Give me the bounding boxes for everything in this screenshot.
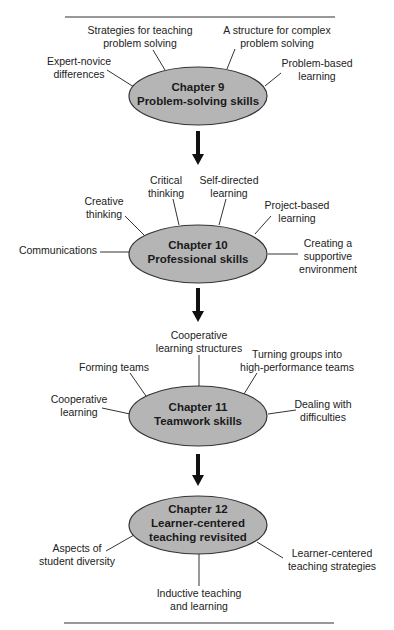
topic-critical-thinking: Criticalthinking — [148, 174, 184, 200]
chapter-12-label: Chapter 12 Learner-centered teaching rev… — [149, 502, 247, 544]
chapter-title: Chapter 10 — [148, 238, 249, 252]
topic-learner-centered-strategies: Learner-centeredteaching strategies — [288, 547, 376, 573]
arrow-down-icon — [192, 288, 204, 322]
chapter-subtitle: teaching revisited — [149, 530, 247, 544]
arrow-down-icon — [192, 454, 204, 486]
topic-expert-novice: Expert-novicedifferences — [47, 55, 111, 81]
topic-dealing-difficulties: Dealing withdifficulties — [294, 398, 351, 424]
chapter-10-label: Chapter 10 Professional skills — [148, 238, 249, 266]
topic-self-directed: Self-directedlearning — [200, 174, 259, 200]
topic-problem-based: Problem-basedlearning — [281, 57, 352, 83]
chapter-title: Chapter 12 — [149, 502, 247, 516]
chapter-11-label: Chapter 11 Teamwork skills — [154, 400, 242, 428]
chapter-subtitle: Problem-solving skills — [137, 94, 259, 108]
topic-supportive-environment: Creating asupportiveenvironment — [299, 237, 357, 276]
arrow-down-icon — [192, 131, 204, 165]
topic-strategies-teaching: Strategies for teachingproblem solving — [87, 24, 192, 50]
topic-forming-teams: Forming teams — [79, 361, 149, 374]
chapter-subtitle: Professional skills — [148, 252, 249, 266]
topic-communications: Communications — [19, 244, 97, 257]
chapter-subtitle: Teamwork skills — [154, 414, 242, 428]
topic-creative-thinking: Creativethinking — [84, 195, 123, 221]
topic-high-performance-teams: Turning groups intohigh-performance team… — [240, 348, 354, 374]
topic-cooperative-structures: Cooperativelearning structures — [156, 329, 242, 355]
chapter-9-label: Chapter 9 Problem-solving skills — [137, 80, 259, 108]
topic-structure-complex: A structure for complexproblem solving — [223, 24, 330, 50]
topic-cooperative-learning: Cooperativelearning — [51, 393, 108, 419]
topic-student-diversity: Aspects ofstudent diversity — [39, 542, 115, 568]
chapter-title: Chapter 11 — [154, 400, 242, 414]
topic-inductive-teaching: Inductive teachingand learning — [157, 587, 242, 613]
topic-project-based: Project-basedlearning — [265, 199, 330, 225]
chapter-subtitle: Learner-centered — [149, 516, 247, 530]
chapter-title: Chapter 9 — [137, 80, 259, 94]
